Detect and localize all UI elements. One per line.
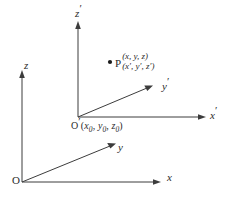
point-p-coord-stack: (x, y, z) (x′, y′, z′) xyxy=(122,51,154,71)
point-p-coords-primed: (x′, y′, z′) xyxy=(122,61,154,71)
y-axis-line xyxy=(22,146,110,182)
x-prime-axis-label-prime: ′ xyxy=(215,104,218,116)
point-p-letter: P xyxy=(115,58,121,69)
z-axis-label: z xyxy=(24,60,28,71)
x-axis-arrowhead xyxy=(153,179,161,185)
z-prime-axis-arrowhead xyxy=(75,21,81,29)
y-axis-arrowhead xyxy=(107,143,116,149)
x-prime-axis-arrowhead xyxy=(198,114,206,120)
y-prime-axis-label: y′ xyxy=(162,81,170,92)
y-prime-axis-label-prime: ′ xyxy=(167,75,170,87)
y-axis-label: y xyxy=(118,142,123,153)
coordinate-frames-figure: O x y z x′ y′ z′ O′(x0, y0, z0) P (x, y,… xyxy=(0,0,237,200)
x-axis-label: x xyxy=(167,172,172,183)
y-prime-axis-line xyxy=(78,88,147,117)
x-prime-axis-label: x′ xyxy=(210,110,218,121)
z-axis-arrowhead xyxy=(19,70,25,78)
point-p-label: P (x, y, z) (x′, y′, z′) xyxy=(115,53,155,73)
origin-prime-label: O′(x0, y0, z0) xyxy=(71,121,123,131)
origin-prime-paren-close: ) xyxy=(119,120,122,131)
point-p-coords-unprimed: (x, y, z) xyxy=(122,51,154,61)
diagram-canvas xyxy=(0,0,237,200)
origin-label: O xyxy=(12,175,20,186)
z-prime-axis-label-prime: ′ xyxy=(79,2,82,14)
point-p-dot xyxy=(108,60,112,64)
z-prime-axis-label: z′ xyxy=(75,8,82,19)
